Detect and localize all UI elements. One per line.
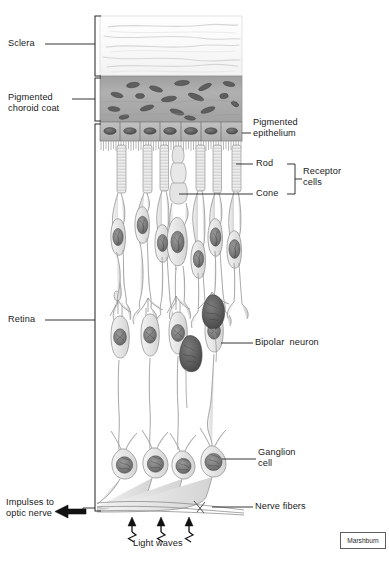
label-rod: Rod [256,158,273,169]
label-nerve-fibers: Nerve fibers [255,501,306,512]
impulses-arrow [55,505,86,518]
label-pigmented-choroid-coat: Pigmented choroid coat [8,92,59,115]
label-pigmented-epithelium: Pigmented epithelium [253,117,298,140]
retina-diagram-figure: Sclera Pigmented choroid coat Retina Imp… [0,0,389,562]
credit-box: Marshburn [340,532,386,549]
ganglion-cells [97,428,226,512]
label-light-waves: Light waves [133,538,183,549]
photoreceptor-cells [111,191,248,331]
amacrine-cells [180,295,225,408]
label-bipolar-neuron: Bipolar neuron [255,337,319,348]
bipolar-nuclei [114,323,221,345]
choroid-layer [100,76,242,122]
label-retina: Retina [8,314,35,325]
label-sclera: Sclera [8,38,35,49]
label-cone: Cone [256,188,278,199]
retina-illustration [0,0,389,562]
label-ganglion-cell: Ganglion cell [258,447,296,470]
cone-outer-segment [170,146,188,204]
sclera-layer [100,16,242,76]
label-impulses-to-optic-nerve: Impulses to optic nerve [6,497,54,520]
label-receptor-cells: Receptor cells [303,166,341,189]
